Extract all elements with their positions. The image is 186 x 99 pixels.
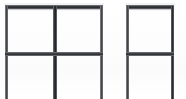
right-panel [120, 0, 186, 99]
left-panel-mid-rail [5, 52, 103, 56]
frame-photo-scene [0, 0, 186, 99]
right-panel-top-rail [126, 5, 174, 9]
right-panel-mid-rail [126, 52, 174, 56]
left-panel [0, 0, 110, 99]
